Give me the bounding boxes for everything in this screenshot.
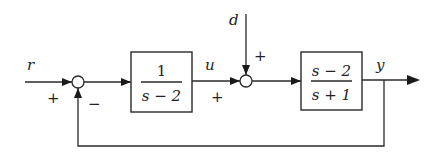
control-arrow-icon [230,77,240,85]
disturbance-plus-sign: + [254,47,267,65]
reference-label: r [27,56,35,74]
disturbance-label: d [229,11,239,29]
plant-denominator: s + 1 [312,86,351,104]
plant-numerator: s − 2 [312,62,351,80]
reference-arrow-icon [62,78,72,86]
error-summing-junction [72,76,84,88]
control-label: u [205,56,215,74]
control-plus-sign: + [211,88,224,106]
controller-numerator: 1 [157,62,167,80]
disturbance-arrow-icon [242,65,250,75]
error-arrow-icon [121,78,131,86]
output-arrow-icon [407,75,420,85]
feedback-arrow-icon [74,88,82,98]
block-diagram: 1 s − 2 s − 2 s + 1 r u d y + − + + [0,0,442,162]
feedback-minus-sign: − [88,95,101,113]
controller-denominator: s − 2 [142,87,181,105]
plant-input-arrow-icon [291,77,301,85]
disturbance-summing-junction [240,75,252,87]
output-label: y [375,56,385,74]
reference-plus-sign: + [47,89,60,107]
